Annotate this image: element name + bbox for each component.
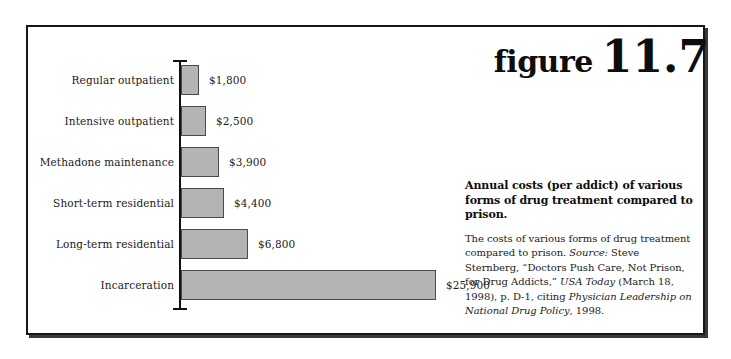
bar-row: Methadone maintenance$3,900 bbox=[28, 145, 458, 179]
bar-row: Regular outpatient$1,800 bbox=[28, 63, 458, 97]
bar bbox=[181, 188, 224, 218]
bar-value-label: $1,800 bbox=[209, 63, 246, 97]
bar-row: Incarceration$25,900 bbox=[28, 268, 458, 302]
figure-label-number: 11.7 bbox=[602, 35, 709, 79]
chart-axis-tick-bottom bbox=[173, 308, 187, 310]
bar-row: Intensive outpatient$2,500 bbox=[28, 104, 458, 138]
bar-chart: Regular outpatient$1,800Intensive outpat… bbox=[28, 27, 458, 333]
caption-title: Annual costs (per addict) of various for… bbox=[465, 179, 693, 223]
bar-row: Long-term residential$6,800 bbox=[28, 227, 458, 261]
bar bbox=[181, 106, 206, 136]
bar-category-label: Long-term residential bbox=[56, 227, 174, 261]
bar-value-label: $6,800 bbox=[258, 227, 295, 261]
bar bbox=[181, 65, 199, 95]
bar-category-label: Regular outpatient bbox=[72, 63, 174, 97]
caption-text-run: Source: bbox=[569, 247, 608, 258]
bar-value-label: $2,500 bbox=[216, 104, 253, 138]
figure-frame: figure 11.7 Regular outpatient$1,800Inte… bbox=[26, 25, 705, 335]
figure-number: figure 11.7 bbox=[494, 35, 709, 79]
bar-row: Short-term residential$4,400 bbox=[28, 186, 458, 220]
bar bbox=[181, 229, 248, 259]
caption-text-run: , 1998. bbox=[570, 305, 605, 316]
bar bbox=[181, 270, 436, 300]
figure-caption: Annual costs (per addict) of various for… bbox=[465, 179, 693, 319]
bar-category-label: Incarceration bbox=[101, 268, 174, 302]
caption-body: The costs of various forms of drug treat… bbox=[465, 232, 693, 319]
bar-category-label: Short-term residential bbox=[53, 186, 174, 220]
bar-value-label: $3,900 bbox=[229, 145, 266, 179]
chart-axis-tick-top bbox=[173, 60, 187, 62]
bar bbox=[181, 147, 219, 177]
bar-value-label: $4,400 bbox=[234, 186, 271, 220]
caption-text-run: USA Today bbox=[560, 276, 615, 287]
bar-category-label: Intensive outpatient bbox=[65, 104, 174, 138]
bar-category-label: Methadone maintenance bbox=[40, 145, 174, 179]
figure-label-word: figure bbox=[494, 47, 593, 77]
